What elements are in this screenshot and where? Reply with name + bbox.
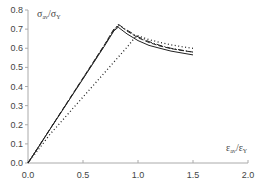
stress-strain-chart: 0.00.10.20.30.40.50.60.70.8 0.00.51.01.5…	[0, 0, 263, 193]
y-axis-title: σav/σY	[37, 8, 61, 20]
y-tick-label: 0.4	[10, 82, 23, 92]
x-tick-label: 1.5	[187, 170, 200, 180]
y-tick-label: 0.5	[10, 62, 23, 72]
y-tick-label: 0.3	[10, 101, 23, 111]
x-tick-label: 0.5	[77, 170, 90, 180]
x-tick-label: 2.0	[242, 170, 255, 180]
y-tick-label: 0.2	[10, 120, 23, 130]
y-tick-label: 0.6	[10, 43, 23, 53]
y-tick-label: 0.7	[10, 24, 23, 34]
series-line-dash-dot	[28, 24, 193, 163]
y-ticks: 0.00.10.20.30.40.50.60.70.8	[10, 5, 28, 168]
x-tick-label: 1.0	[132, 170, 145, 180]
y-tick-label: 0.0	[10, 158, 23, 168]
x-tick-label: 0.0	[22, 170, 35, 180]
axes: 0.00.10.20.30.40.50.60.70.8 0.00.51.01.5…	[10, 5, 254, 180]
series-group	[28, 24, 193, 163]
y-tick-label: 0.1	[10, 139, 23, 149]
series-line-dotted	[28, 36, 193, 163]
series-line-dashed	[28, 25, 193, 163]
y-tick-label: 0.8	[10, 5, 23, 15]
x-axis-title: εav/εY	[226, 142, 248, 154]
